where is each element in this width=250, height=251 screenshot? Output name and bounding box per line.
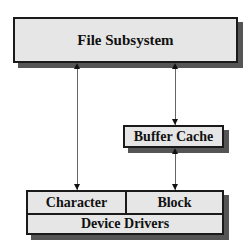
block-label: Block [157,195,191,211]
buffer-cache-label: Buffer Cache [134,129,213,145]
buffer-cache-box: Buffer Cache [123,125,224,148]
block-cell: Block [127,192,222,213]
device-drivers-label: Device Drivers [81,216,169,232]
arrow-file-to-cache [175,63,176,125]
character-label: Character [46,195,107,211]
file-subsystem-box: File Subsystem [13,17,238,63]
device-drivers-row: Device Drivers [28,215,222,233]
arrowhead-up-icon [74,63,80,69]
arrowhead-up-icon [172,148,178,154]
arrow-file-to-character [77,63,78,190]
driver-type-row: Character Block [28,192,222,215]
character-cell: Character [28,192,127,213]
device-drivers-box: Character Block Device Drivers [26,190,224,235]
arrowhead-up-icon [172,63,178,69]
file-subsystem-label: File Subsystem [77,32,173,49]
